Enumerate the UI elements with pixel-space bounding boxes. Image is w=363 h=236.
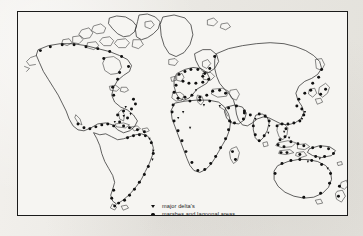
legend-label-marsh: marshes and lagoonal areas bbox=[162, 210, 235, 216]
world-map-svg bbox=[18, 12, 347, 215]
figure-page: major delta's marshes and lagoonal areas bbox=[0, 0, 363, 236]
oceania bbox=[274, 141, 347, 204]
delta-markers bbox=[114, 89, 329, 170]
legend-item-marsh: marshes and lagoonal areas bbox=[144, 210, 324, 216]
asia bbox=[215, 43, 330, 147]
africa bbox=[171, 100, 239, 172]
arctic-region bbox=[62, 14, 230, 65]
legend-label-delta: major delta's bbox=[162, 202, 195, 210]
north-america bbox=[25, 44, 150, 133]
map-frame: major delta's marshes and lagoonal areas bbox=[17, 11, 348, 216]
triangle-down-icon bbox=[144, 205, 162, 208]
filled-dot-icon bbox=[144, 213, 162, 216]
legend: major delta's marshes and lagoonal areas bbox=[144, 202, 324, 216]
legend-item-delta: major delta's bbox=[144, 202, 324, 210]
south-america bbox=[94, 133, 153, 210]
